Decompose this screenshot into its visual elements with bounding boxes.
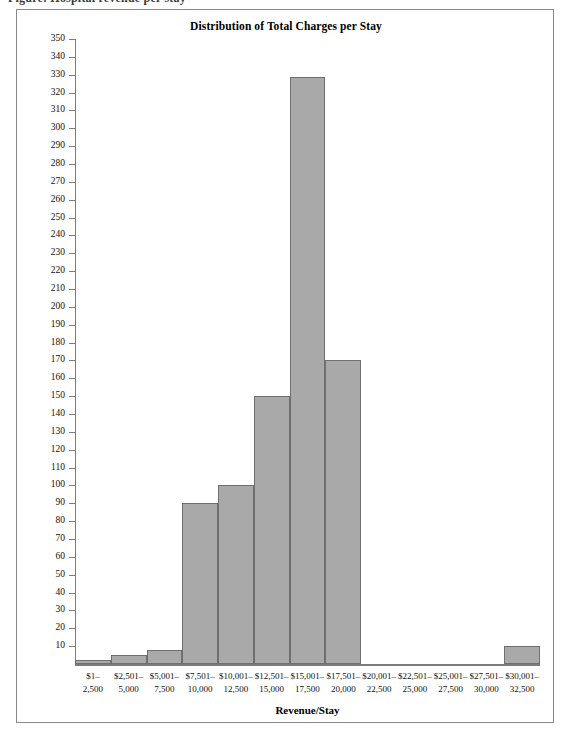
y-axis-tick-label: 220 (51, 265, 65, 275)
y-axis-tick-label: 170 (51, 354, 65, 364)
y-axis-tick: 130 (69, 432, 75, 433)
y-axis-tick: 260 (69, 200, 75, 201)
y-axis-tick: 20 (69, 628, 75, 629)
y-axis-tick-label: 310 (51, 104, 65, 114)
y-axis-tick: 10 (69, 646, 75, 647)
y-axis-tick-label: 200 (51, 301, 65, 311)
y-axis-tick: 50 (69, 575, 75, 576)
y-axis-tick-label: 320 (51, 87, 65, 97)
y-axis-tick: 300 (69, 128, 75, 129)
y-axis-tick-label: 300 (51, 122, 65, 132)
y-axis-tick-label: 230 (51, 247, 65, 257)
y-axis-tick: 110 (69, 468, 75, 469)
y-axis-tick-label: 100 (51, 479, 65, 489)
y-axis-tick: 160 (69, 378, 75, 379)
y-axis-tick-label: 140 (51, 408, 65, 418)
y-axis-tick-label: 290 (51, 140, 65, 150)
x-axis-title: Revenue/Stay (75, 704, 540, 716)
x-axis-tick-labels: $1–2,500$2,501–5,000$5,001–7,500$7,501–1… (75, 670, 540, 704)
bar (254, 396, 290, 664)
page-header-strip: Figure: Hospital revenue per stay (0, 0, 569, 9)
y-axis-tick: 80 (69, 521, 75, 522)
y-axis-tick: 90 (69, 503, 75, 504)
y-axis-tick: 170 (69, 360, 75, 361)
y-axis-tick-label: 110 (51, 462, 65, 472)
y-axis-tick: 60 (69, 557, 75, 558)
plot-area: 3503403303203103002902802702602502402302… (75, 39, 540, 665)
y-axis-tick-label: 280 (51, 158, 65, 168)
y-axis-tick: 30 (69, 610, 75, 611)
y-axis-tick-label: 30 (56, 604, 66, 614)
chart-frame: Distribution of Total Charges per Stay N… (16, 9, 554, 723)
y-axis-tick: 40 (69, 593, 75, 594)
y-axis-tick: 340 (69, 57, 75, 58)
bar (111, 655, 147, 664)
y-axis-tick-label: 330 (51, 69, 65, 79)
y-axis-tick: 190 (69, 325, 75, 326)
x-axis-line (75, 664, 540, 666)
y-axis-tick-label: 260 (51, 194, 65, 204)
bar (75, 660, 111, 664)
y-axis-tick-label: 70 (56, 533, 66, 543)
y-axis-tick-label: 350 (51, 33, 65, 43)
y-axis-tick-label: 270 (51, 176, 65, 186)
y-axis-tick-label: 60 (56, 551, 66, 561)
y-axis-tick-label: 190 (51, 319, 65, 329)
y-axis-tick-label: 150 (51, 390, 65, 400)
y-axis-tick-label: 120 (51, 444, 65, 454)
bar (325, 360, 361, 664)
y-axis-tick: 330 (69, 75, 75, 76)
y-axis-tick-label: 240 (51, 229, 65, 239)
y-axis-tick-label: 80 (56, 515, 66, 525)
bar (147, 650, 183, 664)
y-axis-tick-label: 50 (56, 569, 66, 579)
y-axis-tick: 350 (69, 39, 75, 40)
y-axis-tick: 200 (69, 307, 75, 308)
page-header-text: Figure: Hospital revenue per stay (8, 0, 186, 6)
y-axis-tick: 230 (69, 253, 75, 254)
y-axis-tick: 140 (69, 414, 75, 415)
x-axis-tick-label: $30,001–32,500 (500, 670, 544, 695)
y-axis-tick-label: 180 (51, 337, 65, 347)
x-label-line-1: $30,001– (500, 670, 544, 683)
y-axis-tick-label: 90 (56, 497, 66, 507)
y-axis-tick: 210 (69, 289, 75, 290)
y-axis-tick-label: 40 (56, 587, 66, 597)
chart-title: Distribution of Total Charges per Stay (17, 20, 555, 32)
y-axis-tick-label: 160 (51, 372, 65, 382)
y-axis-tick-label: 130 (51, 426, 65, 436)
bar (218, 485, 254, 664)
y-axis-tick: 240 (69, 235, 75, 236)
y-axis-tick-label: 250 (51, 212, 65, 222)
y-axis-tick: 270 (69, 182, 75, 183)
y-axis-tick-label: 10 (56, 640, 66, 650)
y-axis-tick: 120 (69, 450, 75, 451)
y-axis-tick: 290 (69, 146, 75, 147)
y-axis-tick: 250 (69, 218, 75, 219)
y-axis-tick: 220 (69, 271, 75, 272)
bar (504, 646, 540, 664)
x-label-line-2: 32,500 (500, 683, 544, 696)
y-axis-tick: 70 (69, 539, 75, 540)
y-axis-tick: 320 (69, 93, 75, 94)
bar (290, 77, 326, 665)
y-axis-tick: 180 (69, 343, 75, 344)
y-axis-tick: 100 (69, 485, 75, 486)
y-axis-tick-label: 340 (51, 51, 65, 61)
y-axis-tick: 280 (69, 164, 75, 165)
bar (182, 503, 218, 664)
y-axis-tick: 310 (69, 110, 75, 111)
y-axis-line (75, 39, 76, 665)
y-axis-tick-label: 210 (51, 283, 65, 293)
y-axis-tick: 150 (69, 396, 75, 397)
y-axis-tick-label: 20 (56, 622, 66, 632)
